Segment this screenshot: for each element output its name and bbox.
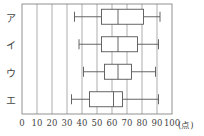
category-label: エ bbox=[4, 92, 18, 107]
boxplot-chart bbox=[0, 0, 204, 136]
box-1 bbox=[75, 9, 161, 24]
iqr-box bbox=[102, 9, 144, 24]
x-tick-label: 60 bbox=[107, 118, 118, 128]
x-tick-label: 80 bbox=[137, 118, 148, 128]
x-tick-label: 0 bbox=[19, 118, 24, 128]
x-tick-label: 90 bbox=[152, 118, 163, 128]
boxes bbox=[72, 9, 161, 107]
box-4 bbox=[72, 92, 159, 107]
category-label: イ bbox=[4, 37, 18, 52]
box-3 bbox=[84, 64, 156, 79]
x-tick-label: 50 bbox=[92, 118, 103, 128]
category-label: ア bbox=[4, 10, 18, 25]
x-tick-label: 40 bbox=[77, 118, 88, 128]
x-tick-label: 30 bbox=[62, 118, 73, 128]
category-label: ウ bbox=[4, 65, 18, 80]
x-axis-unit: (点) bbox=[178, 118, 194, 130]
x-tick-label: 10 bbox=[32, 118, 43, 128]
iqr-box bbox=[90, 92, 123, 107]
x-tick-label: 70 bbox=[122, 118, 133, 128]
box-2 bbox=[79, 37, 159, 52]
x-tick-label: 20 bbox=[47, 118, 58, 128]
iqr-box bbox=[102, 37, 138, 52]
